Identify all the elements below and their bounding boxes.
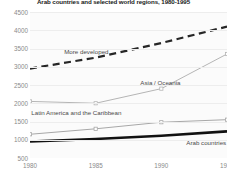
x-axis-tick-label: 1995 xyxy=(212,162,227,170)
y-axis-tick-label: 4000 xyxy=(2,27,28,34)
x-axis-tick-label: 1980 xyxy=(15,162,45,170)
gridline xyxy=(30,12,227,13)
x-axis-tick-label: 1990 xyxy=(146,162,176,170)
y-axis-tick-label: 2500 xyxy=(2,82,28,89)
y-axis-tick-label: 3500 xyxy=(2,45,28,52)
series-marker xyxy=(225,52,227,55)
y-axis-tick-label: 1500 xyxy=(2,118,28,125)
plot-area xyxy=(30,12,227,158)
y-axis-tick-label: 3000 xyxy=(2,63,28,70)
series-label: Latin America and the Caribbean xyxy=(31,109,121,117)
series-label: Arab countries xyxy=(186,139,226,147)
series-line xyxy=(30,54,227,103)
gridline xyxy=(30,85,227,86)
gridline xyxy=(30,67,227,68)
gridline xyxy=(30,49,227,50)
y-axis-tick-label: 500 xyxy=(2,155,28,162)
gridline xyxy=(30,30,227,31)
chart-figure: Arab countries and selected world region… xyxy=(0,0,227,181)
chart-title: Arab countries and selected world region… xyxy=(0,0,227,6)
series-marker xyxy=(160,87,163,90)
y-axis-tick-label: 1000 xyxy=(2,136,28,143)
y-axis-tick-label: 2000 xyxy=(2,100,28,107)
gridline xyxy=(30,122,227,123)
x-axis-tick-label: 1985 xyxy=(81,162,111,170)
series-marker xyxy=(30,133,32,136)
series-marker xyxy=(94,127,97,130)
series-label: Asia / Oceania xyxy=(140,79,180,87)
y-axis-tick-label: 4500 xyxy=(2,9,28,16)
series-label: More developed xyxy=(64,48,108,56)
gridline xyxy=(30,103,227,104)
